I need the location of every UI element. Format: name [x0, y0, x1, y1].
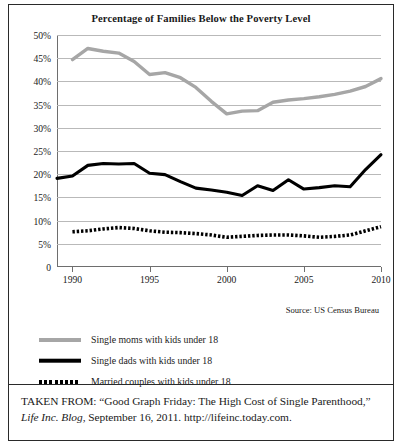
y-axis-tick-label: 20% — [33, 169, 51, 180]
legend-item-label: Married couples with kids under 18 — [91, 376, 231, 387]
x-axis-tick — [304, 267, 305, 272]
caption-suffix: , September 16, 2011. http://lifeinc.tod… — [83, 411, 292, 423]
y-axis-tick-label: 30% — [33, 122, 51, 133]
figure-caption: TAKEN FROM: “Good Graph Friday: The High… — [21, 393, 383, 425]
caption-publication: Life Inc. Blog — [21, 411, 83, 423]
x-axis-tick-label: 1990 — [63, 274, 82, 285]
y-axis-tick-label: 25% — [33, 146, 51, 157]
legend-item: Married couples with kids under 18 — [39, 371, 369, 392]
legend-item-label: Single moms with kids under 18 — [91, 334, 218, 345]
y-axis-tick-label: 10% — [33, 215, 51, 226]
series-line — [72, 227, 381, 238]
x-axis-tick-label: 2005 — [294, 274, 313, 285]
figure-container: Percentage of Families Below the Poverty… — [8, 4, 394, 441]
caption-prefix: TAKEN FROM: “Good Graph Friday: The High… — [21, 395, 371, 407]
source-note: Source: US Census Bureau — [286, 305, 379, 315]
x-axis-tick-label: 2010 — [371, 274, 390, 285]
x-axis-tick — [150, 267, 151, 272]
y-axis-tick-label: 45% — [33, 53, 51, 64]
legend-item: Single dads with kids under 18 — [39, 350, 369, 371]
plot-area: 05%10%15%20%25%30%35%40%45%50% 199019952… — [57, 35, 381, 267]
y-axis-tick-label: 50% — [33, 30, 51, 41]
legend-swatch-icon — [39, 355, 81, 367]
legend-item: Single moms with kids under 18 — [39, 329, 369, 350]
y-axis-tick-label: 5% — [38, 238, 51, 249]
x-axis-tick-label: 2000 — [217, 274, 236, 285]
x-axis-tick-label: 1995 — [140, 274, 159, 285]
x-axis-tick — [72, 267, 73, 272]
series-line — [57, 155, 381, 196]
legend-swatch-icon — [39, 376, 81, 388]
y-axis-tick-label: 40% — [33, 76, 51, 87]
x-axis-tick — [381, 267, 382, 272]
x-axis-tick — [227, 267, 228, 272]
y-axis-tick-label: 15% — [33, 192, 51, 203]
y-axis-tick-label: 35% — [33, 99, 51, 110]
chart-legend: Single moms with kids under 18Single dad… — [39, 329, 369, 392]
chart-title: Percentage of Families Below the Poverty… — [9, 13, 393, 24]
y-axis-tick-label: 0 — [46, 262, 51, 273]
section-divider — [9, 384, 393, 385]
series-lines — [57, 35, 381, 267]
series-line — [72, 48, 381, 113]
legend-swatch-icon — [39, 334, 81, 346]
chart-panel: Percentage of Families Below the Poverty… — [9, 5, 393, 384]
legend-item-label: Single dads with kids under 18 — [91, 355, 212, 366]
